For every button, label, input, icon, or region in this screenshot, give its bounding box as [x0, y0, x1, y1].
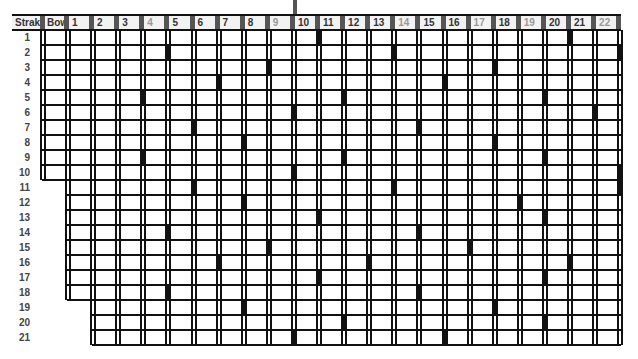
column-line — [220, 210, 222, 225]
column-line — [366, 165, 368, 180]
column-line — [596, 270, 598, 285]
column-line — [291, 45, 293, 60]
column-line — [270, 285, 272, 300]
column-line — [341, 195, 343, 210]
column-line — [366, 30, 368, 45]
column-line — [517, 30, 519, 45]
column-line — [119, 90, 121, 105]
column-line — [517, 240, 519, 255]
column-line — [395, 90, 397, 105]
column-line — [420, 135, 422, 150]
column-line — [291, 60, 293, 75]
butt-marker — [366, 256, 371, 269]
column-line — [446, 300, 448, 315]
column-line — [517, 330, 519, 345]
column-line — [521, 120, 523, 135]
column-line — [216, 120, 218, 135]
column-line — [169, 90, 171, 105]
column-line — [496, 270, 498, 285]
butt-marker — [416, 226, 421, 239]
column-line — [291, 195, 293, 210]
column-line — [165, 165, 167, 180]
column-line — [446, 255, 448, 270]
column-line — [295, 315, 297, 330]
row-label-20: 20 — [0, 315, 30, 330]
column-line — [266, 135, 268, 150]
butt-marker — [140, 151, 145, 164]
column-line — [617, 90, 619, 105]
column-line — [446, 240, 448, 255]
column-line — [391, 285, 393, 300]
column-line — [291, 135, 293, 150]
column-line — [391, 330, 393, 345]
column-line — [65, 270, 67, 285]
butt-marker — [567, 256, 572, 269]
column-line — [391, 105, 393, 120]
column-line — [571, 210, 573, 225]
column-line — [266, 315, 268, 330]
column-line — [416, 315, 418, 330]
column-line — [291, 285, 293, 300]
column-line — [517, 105, 519, 120]
row-label-4: 4 — [0, 75, 30, 90]
column-line — [165, 195, 167, 210]
column-line — [65, 165, 67, 180]
column-line — [270, 210, 272, 225]
column-line — [216, 165, 218, 180]
header-column-15: 15 — [420, 15, 441, 30]
butt-marker — [617, 46, 622, 59]
column-line — [40, 120, 42, 135]
column-line — [542, 120, 544, 135]
column-line — [115, 45, 117, 60]
column-line — [291, 270, 293, 285]
column-line — [191, 60, 193, 75]
column-line — [391, 150, 393, 165]
column-line — [617, 195, 619, 210]
column-line — [492, 150, 494, 165]
row-line — [42, 164, 621, 166]
column-line — [140, 210, 142, 225]
column-line — [165, 240, 167, 255]
column-line — [617, 315, 619, 330]
column-line — [492, 210, 494, 225]
column-line — [140, 75, 142, 90]
butt-marker — [467, 241, 472, 254]
column-line — [517, 180, 519, 195]
column-line — [144, 165, 146, 180]
column-line — [592, 90, 594, 105]
column-line — [191, 225, 193, 240]
column-line — [144, 330, 146, 345]
column-line — [90, 195, 92, 210]
column-line — [546, 60, 548, 75]
butt-marker — [291, 331, 296, 344]
column-line — [195, 90, 197, 105]
column-line — [266, 270, 268, 285]
column-line — [165, 180, 167, 195]
column-line — [370, 225, 372, 240]
column-line — [496, 180, 498, 195]
column-line — [517, 90, 519, 105]
column-line — [245, 240, 247, 255]
column-line — [617, 225, 619, 240]
column-line — [416, 255, 418, 270]
column-line — [94, 165, 96, 180]
column-line — [596, 135, 598, 150]
column-line — [567, 240, 569, 255]
column-line — [90, 105, 92, 120]
column-line — [442, 240, 444, 255]
column-line — [165, 255, 167, 270]
column-line — [621, 135, 623, 150]
column-line — [517, 225, 519, 240]
column-line — [571, 240, 573, 255]
column-line — [596, 315, 598, 330]
column-line — [119, 75, 121, 90]
column-line — [370, 30, 372, 45]
butt-marker — [341, 316, 346, 329]
column-line — [521, 315, 523, 330]
column-line — [140, 105, 142, 120]
column-line — [391, 165, 393, 180]
butt-marker — [216, 76, 221, 89]
column-line — [391, 75, 393, 90]
column-line — [316, 60, 318, 75]
column-line — [140, 315, 142, 330]
